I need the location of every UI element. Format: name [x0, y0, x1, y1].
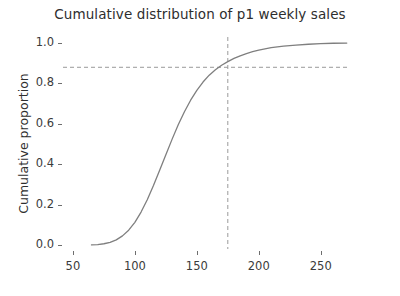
chart-title: Cumulative distribution of p1 weekly sal… [0, 6, 400, 22]
plot-canvas [63, 37, 348, 249]
y-tick-mark [58, 124, 62, 125]
y-tick-label: 0.4 [12, 156, 54, 170]
plot-area [63, 37, 348, 249]
x-tick-mark [197, 251, 198, 255]
y-tick-label: 0.0 [12, 237, 54, 251]
x-tick-label: 100 [105, 259, 165, 273]
y-tick-label: 1.0 [12, 35, 54, 49]
x-tick-label: 50 [43, 259, 103, 273]
x-tick-mark [321, 251, 322, 255]
cumulative-distribution-curve [92, 43, 347, 245]
y-tick-label: 0.6 [12, 116, 54, 130]
y-tick-mark [58, 43, 62, 44]
y-tick-mark [58, 83, 62, 84]
y-tick-mark [58, 205, 62, 206]
y-tick-mark [58, 164, 62, 165]
y-tick-mark [58, 245, 62, 246]
x-tick-mark [135, 251, 136, 255]
x-tick-label: 200 [229, 259, 289, 273]
y-axis-label: Cumulative proportion [16, 39, 31, 249]
x-tick-mark [259, 251, 260, 255]
x-tick-label: 150 [167, 259, 227, 273]
y-tick-label: 0.2 [12, 197, 54, 211]
x-tick-mark [73, 251, 74, 255]
chart-figure: Cumulative distribution of p1 weekly sal… [0, 0, 400, 296]
y-tick-label: 0.8 [12, 75, 54, 89]
x-tick-label: 250 [291, 259, 351, 273]
